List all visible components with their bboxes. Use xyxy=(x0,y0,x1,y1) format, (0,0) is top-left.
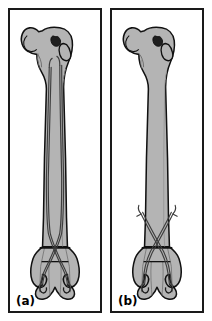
panel-a-label: (a) xyxy=(16,295,35,307)
panel-b-label: (b) xyxy=(118,295,138,307)
panel-b: (b) xyxy=(110,8,204,313)
femur-diagram-b xyxy=(112,10,202,311)
femur-diagram-a xyxy=(10,10,100,311)
figure-container: (a) xyxy=(0,0,212,321)
panel-a: (a) xyxy=(8,8,102,313)
panel-row: (a) xyxy=(0,0,212,321)
bone-shape-b xyxy=(123,27,181,299)
